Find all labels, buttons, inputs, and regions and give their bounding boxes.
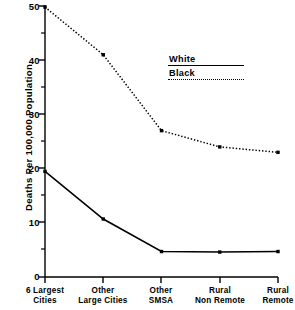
data-point-white-4	[276, 250, 279, 253]
legend-entry-white: White	[168, 54, 248, 66]
chart-legend: White Black	[168, 54, 248, 82]
data-point-black-3	[218, 145, 221, 148]
plot-area	[0, 0, 295, 310]
x-tick-label-4: Rural Remote	[238, 286, 295, 306]
data-point-white-1	[102, 217, 105, 220]
legend-label-white: White	[168, 54, 248, 64]
data-point-black-0	[43, 5, 46, 8]
data-point-black-4	[276, 151, 279, 154]
chart-container: Deaths Per 100,000 Population 50 40 30 2…	[0, 0, 295, 310]
x-axis-ticks	[45, 277, 278, 283]
legend-swatch-black-dotted-line	[168, 79, 244, 80]
data-point-white-3	[218, 250, 221, 253]
data-point-black-1	[102, 53, 105, 56]
data-point-white-0	[43, 170, 46, 173]
legend-label-black: Black	[168, 68, 248, 78]
legend-entry-black: Black	[168, 68, 248, 80]
series-line-white	[45, 171, 278, 252]
legend-swatch-white-solid-line	[168, 65, 244, 66]
x-tick-label-4-line2: Remote	[238, 296, 295, 306]
x-tick-label-4-line1: Rural	[238, 286, 295, 296]
data-point-white-2	[160, 250, 163, 253]
data-point-black-2	[160, 129, 163, 132]
series-points-white	[43, 170, 279, 254]
